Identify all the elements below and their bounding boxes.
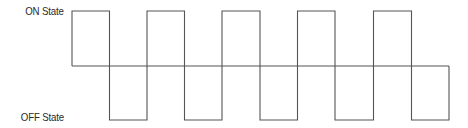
square-wave-plot (0, 0, 468, 128)
square-wave-diagram: ON State OFF State (0, 0, 468, 128)
